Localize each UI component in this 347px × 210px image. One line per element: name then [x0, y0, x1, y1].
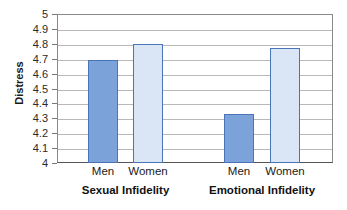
y-tick-label: 4.5	[0, 83, 48, 95]
y-tick-label: 5	[0, 8, 48, 20]
y-tick-label: 4.3	[0, 112, 48, 124]
bar	[88, 60, 118, 163]
category-label: Women	[115, 165, 181, 177]
y-axis-tick-labels: 5 4.9 4.8 4.7 4.6 4.5 4.4 4.3 4.2 4.1 4	[0, 14, 53, 163]
bar	[270, 48, 300, 163]
y-tick-label: 4	[0, 157, 48, 169]
category-labels: MenWomenMenWomen	[57, 165, 333, 183]
y-tick-label: 4.7	[0, 53, 48, 65]
group-label: Sexual Infidelity	[56, 184, 196, 196]
category-label: Women	[252, 165, 318, 177]
y-tick-label: 4.2	[0, 127, 48, 139]
bar-chart: Distress 5 4.9 4.8 4.7 4.6 4.5 4.4 4.3 4…	[0, 0, 347, 210]
y-tick-label: 4.6	[0, 68, 48, 80]
group-labels: Sexual InfidelityEmotional Infidelity	[57, 184, 333, 204]
y-axis-tick-mark	[52, 163, 57, 164]
group-label: Emotional Infidelity	[192, 184, 332, 196]
y-tick-label: 4.1	[0, 142, 48, 154]
y-tick-label: 4.9	[0, 23, 48, 35]
bar	[133, 44, 163, 163]
bar	[224, 114, 254, 163]
y-tick-label: 4.4	[0, 97, 48, 109]
bars-layer	[57, 14, 333, 163]
y-tick-label: 4.8	[0, 38, 48, 50]
